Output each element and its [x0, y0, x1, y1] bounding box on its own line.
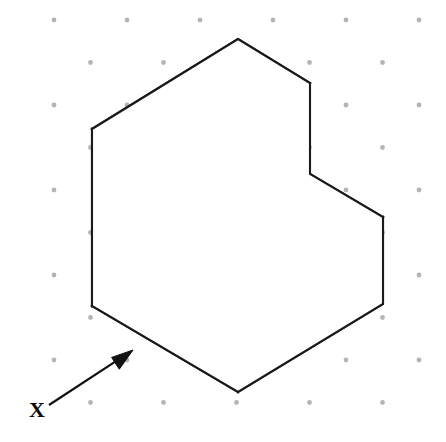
grid-dot: [344, 358, 349, 363]
grid-dot: [234, 400, 239, 405]
grid-dot: [52, 18, 57, 23]
grid-dot: [380, 400, 385, 405]
grid-dot: [88, 60, 93, 65]
grid-dot: [380, 315, 385, 320]
grid-dot: [417, 273, 422, 278]
grid-dot: [417, 103, 422, 108]
grid-dot: [271, 18, 276, 23]
grid-dot: [52, 273, 57, 278]
grid-dot: [307, 60, 312, 65]
grid-dot: [344, 18, 349, 23]
grid-dot: [307, 400, 312, 405]
isometric-figure-canvas: X: [0, 0, 446, 442]
grid-dot: [198, 18, 203, 23]
grid-dot: [125, 18, 130, 23]
grid-dot: [161, 60, 166, 65]
grid-dot: [344, 103, 349, 108]
isometric-drawing: X: [0, 0, 446, 442]
grid-dot: [52, 358, 57, 363]
grid-dot: [344, 188, 349, 193]
grid-dot: [417, 358, 422, 363]
grid-dot: [52, 103, 57, 108]
grid-dot: [88, 315, 93, 320]
grid-dot: [88, 400, 93, 405]
grid-dot: [417, 188, 422, 193]
direction-label-x: X: [29, 397, 45, 422]
grid-dot: [161, 400, 166, 405]
grid-dot: [417, 18, 422, 23]
grid-dot: [380, 60, 385, 65]
grid-dot: [52, 188, 57, 193]
grid-dot: [380, 145, 385, 150]
